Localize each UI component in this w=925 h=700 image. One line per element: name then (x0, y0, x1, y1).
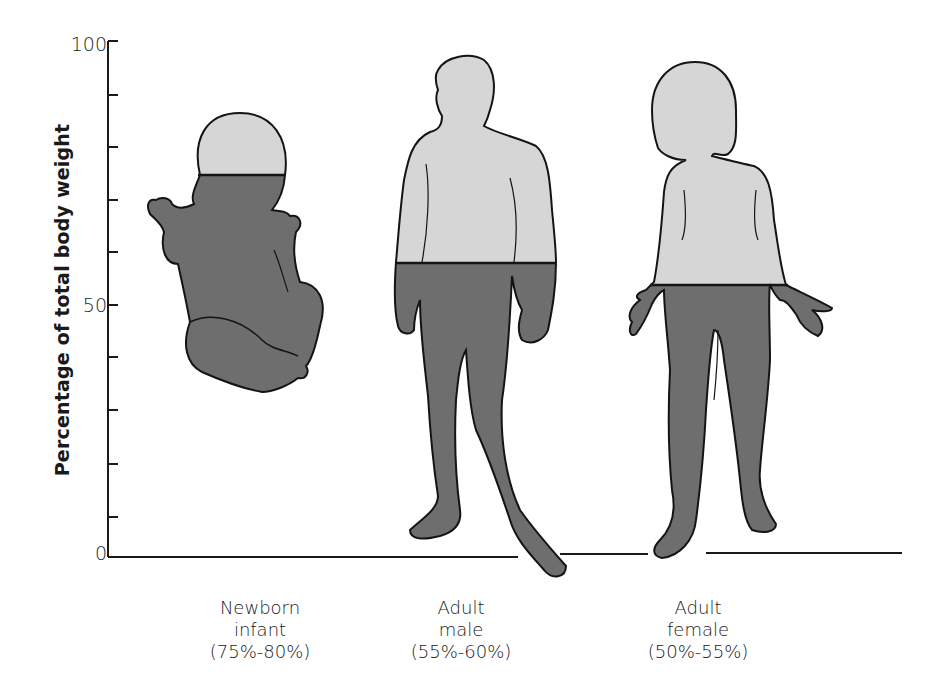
infant-range: (75%-80%) (180, 641, 340, 663)
y-tick-label-0: 0 (95, 542, 107, 564)
infant-label-line2: infant (180, 619, 340, 641)
y-tick-label-100: 100 (71, 33, 107, 55)
female-range: (50%-55%) (618, 641, 778, 663)
y-axis (108, 41, 118, 557)
category-label-female: Adult female (50%-55%) (618, 597, 778, 663)
male-figure (395, 56, 566, 576)
infant-figure (148, 113, 323, 392)
category-label-male: Adult male (55%-60%) (381, 597, 541, 663)
female-label-line1: Adult (618, 597, 778, 619)
y-tick-label-50: 50 (83, 294, 107, 316)
infant-label-line1: Newborn (180, 597, 340, 619)
male-label-line1: Adult (381, 597, 541, 619)
male-label-line2: male (381, 619, 541, 641)
female-figure (630, 62, 832, 558)
female-label-line2: female (618, 619, 778, 641)
category-label-infant: Newborn infant (75%-80%) (180, 597, 340, 663)
y-axis-title: Percentage of total body weight (51, 124, 73, 477)
x-axis-baseline (108, 553, 902, 557)
male-range: (55%-60%) (381, 641, 541, 663)
body-water-figure (0, 0, 925, 700)
